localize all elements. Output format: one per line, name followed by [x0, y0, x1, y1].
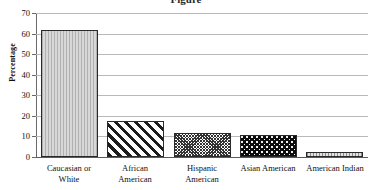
gridline-0: [36, 157, 368, 158]
x-axis-label-line1: African: [122, 163, 148, 173]
x-axis-label-line2: American: [169, 174, 235, 185]
x-axis-label-5: American Indian: [302, 163, 368, 174]
chart-title-fragment-text: Figure: [171, 0, 202, 5]
x-axis-label-line2: American: [102, 174, 168, 185]
y-tick-label-0: 0: [0, 153, 30, 162]
y-tick-mark-0: [32, 157, 36, 158]
y-tick-label-20: 20: [0, 112, 30, 121]
bar-3: [174, 133, 231, 157]
bar-4: [240, 135, 297, 157]
x-axis-label-1: Caucasian orWhite: [36, 163, 102, 185]
y-tick-mark-40: [32, 75, 36, 76]
plot-area: [36, 13, 368, 157]
y-tick-mark-20: [32, 116, 36, 117]
x-axis-label-line1: Asian American: [241, 163, 296, 173]
chart-title-fragment: Figure: [0, 0, 372, 5]
bar-chart: Figure Percentage 706050403020100 Caucas…: [0, 0, 372, 190]
y-tick-mark-70: [32, 13, 36, 14]
y-tick-label-60: 60: [0, 30, 30, 39]
x-axis-label-line1: Caucasian or: [47, 163, 91, 173]
x-axis-label-line2: White: [36, 174, 102, 185]
y-tick-mark-60: [32, 34, 36, 35]
x-axis-label-4: Asian American: [235, 163, 301, 174]
y-tick-label-40: 40: [0, 71, 30, 80]
y-tick-label-30: 30: [0, 91, 30, 100]
x-axis-label-line1: American Indian: [306, 163, 363, 173]
bar-5: [306, 152, 363, 157]
y-tick-label-50: 50: [0, 50, 30, 59]
x-axis-label-3: HispanicAmerican: [169, 163, 235, 185]
gridline-70: [36, 13, 368, 14]
x-axis-label-line1: Hispanic: [187, 163, 217, 173]
bar-2: [107, 121, 164, 157]
x-axis-category-labels: Caucasian orWhiteAfricanAmericanHispanic…: [36, 163, 368, 189]
y-tick-label-10: 10: [0, 132, 30, 141]
y-tick-mark-30: [32, 95, 36, 96]
y-tick-mark-50: [32, 54, 36, 55]
x-axis-label-2: AfricanAmerican: [102, 163, 168, 185]
y-tick-mark-10: [32, 136, 36, 137]
bar-1: [41, 30, 98, 157]
y-tick-label-70: 70: [0, 9, 30, 18]
